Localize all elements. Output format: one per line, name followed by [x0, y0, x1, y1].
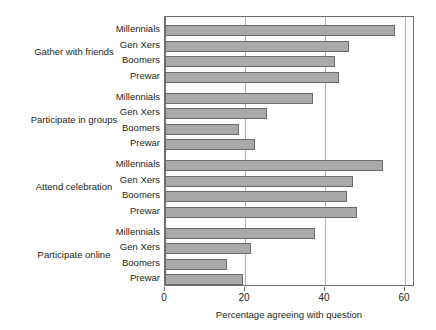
x-tick-label: 60 [389, 292, 419, 303]
x-tick-label: 20 [229, 292, 259, 303]
bar [165, 259, 227, 270]
bar [165, 228, 315, 239]
category-label: Millennials [52, 91, 160, 102]
category-label: Prewar [52, 272, 160, 283]
x-tick [244, 287, 245, 291]
bar [165, 25, 395, 36]
group-label: Participate online [0, 249, 148, 260]
category-label: Prewar [52, 137, 160, 148]
group-label: Gather with friends [0, 46, 148, 57]
bar [165, 191, 347, 202]
bar [165, 108, 267, 119]
bar [165, 160, 383, 171]
bar [165, 243, 251, 254]
plot-area [164, 16, 414, 286]
bar [165, 176, 353, 187]
group-label: Attend celebration [0, 181, 148, 192]
bar [165, 207, 357, 218]
bar [165, 56, 335, 67]
x-tick [404, 287, 405, 291]
bar-chart: MillennialsGen XersBoomersPrewarMillenni… [0, 0, 436, 330]
x-axis-title: Percentage agreeing with question [164, 309, 414, 320]
category-label: Millennials [52, 158, 160, 169]
category-label: Millennials [52, 226, 160, 237]
category-label: Prewar [52, 205, 160, 216]
x-tick-label: 0 [149, 292, 179, 303]
x-tick [324, 287, 325, 291]
category-label: Prewar [52, 70, 160, 81]
category-label: Millennials [52, 23, 160, 34]
x-tick-label: 40 [309, 292, 339, 303]
gridline-60 [405, 17, 406, 285]
bar [165, 124, 239, 135]
bar [165, 72, 339, 83]
bar [165, 93, 313, 104]
bar [165, 139, 255, 150]
bar [165, 41, 349, 52]
x-tick [164, 287, 165, 291]
bar [165, 274, 243, 285]
group-label: Participate in groups [0, 114, 148, 125]
